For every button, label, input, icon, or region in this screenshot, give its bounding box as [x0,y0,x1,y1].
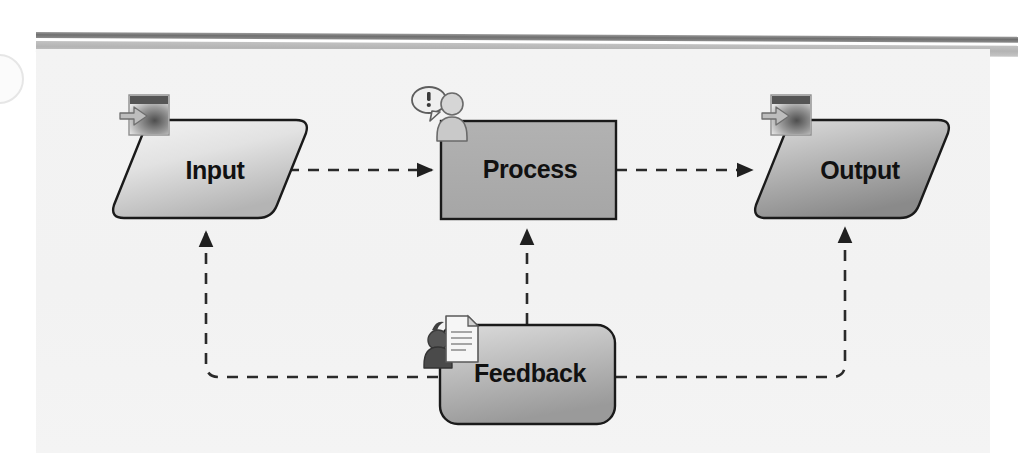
export-window-arrow-icon [762,95,811,135]
connector-feedback-to-input [206,232,438,377]
import-window-arrow-icon [120,95,169,135]
connector-output-to-feedback [616,228,845,377]
diagram-canvas: Input Process Output Feedback [0,0,1020,472]
person-alert-icon [412,87,467,141]
diagram-graphics [0,0,1020,472]
person-document-icon [424,316,478,368]
